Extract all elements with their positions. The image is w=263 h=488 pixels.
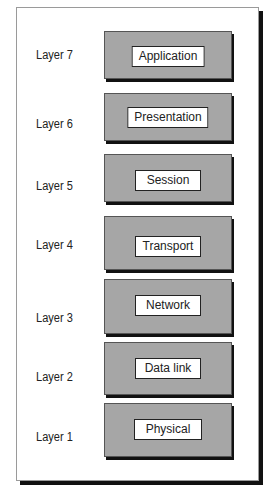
layer-label: Layer 2 (36, 370, 91, 384)
layer-label: Layer 7 (36, 48, 91, 62)
layer-label: Layer 5 (36, 179, 91, 193)
layer-box: Session (104, 154, 232, 202)
layer-name: Transport (135, 236, 201, 257)
layer-box: Presentation (104, 93, 232, 141)
layer-label: Layer 3 (36, 311, 91, 325)
layer-name: Network (135, 295, 201, 316)
layer-label: Layer 4 (36, 238, 91, 252)
layer-label: Layer 6 (36, 117, 91, 131)
layer-box: Data link (104, 342, 232, 395)
layer-box: Network (104, 279, 232, 334)
layer-box: Physical (104, 403, 232, 457)
layer-name: Data link (135, 358, 201, 379)
layer-box: Application (104, 31, 232, 79)
layer-name: Application (132, 46, 205, 67)
layer-name: Session (135, 170, 201, 191)
layer-name: Presentation (127, 107, 208, 128)
layer-box: Transport (104, 216, 232, 270)
layer-label: Layer 1 (36, 430, 91, 444)
layer-name: Physical (134, 419, 202, 440)
